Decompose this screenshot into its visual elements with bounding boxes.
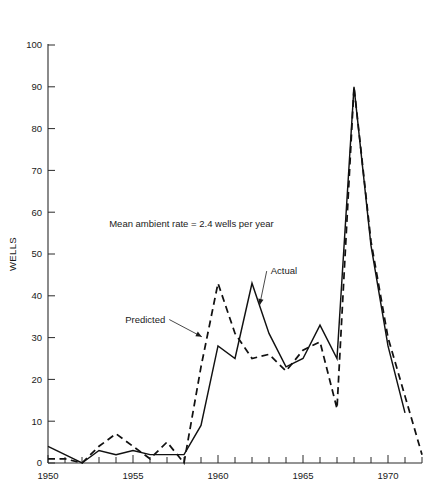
- x-tick-label: 1970: [377, 470, 398, 481]
- series-line-predicted: [48, 87, 422, 463]
- y-tick-label: 40: [31, 290, 42, 301]
- y-tick-label: 50: [31, 248, 42, 259]
- series-layer: [48, 87, 422, 463]
- y-axis: 0102030405060708090100 WELLS: [7, 39, 55, 468]
- y-tick-label: 90: [31, 81, 42, 92]
- y-tick-group: 0102030405060708090100: [26, 39, 55, 468]
- y-tick-label: 60: [31, 207, 42, 218]
- y-tick-label: 70: [31, 165, 42, 176]
- chart-canvas: 0102030405060708090100 WELLS 19501955196…: [0, 0, 440, 492]
- x-tick-label: 1960: [207, 470, 228, 481]
- y-tick-label: 30: [31, 332, 42, 343]
- series-line-actual: [48, 87, 405, 463]
- wells-line-chart: 0102030405060708090100 WELLS 19501955196…: [0, 0, 440, 492]
- y-tick-label: 10: [31, 416, 42, 427]
- annotation-layer: Mean ambient rate = 2.4 wells per year A…: [109, 218, 297, 337]
- y-tick-label: 100: [26, 39, 42, 50]
- y-tick-label: 20: [31, 374, 42, 385]
- x-tick-label: 1955: [122, 470, 143, 481]
- series-label-predicted: Predicted: [125, 314, 165, 325]
- x-tick-label: 1965: [292, 470, 313, 481]
- annotation-mean-ambient-rate: Mean ambient rate = 2.4 wells per year: [109, 218, 274, 229]
- series-label-actual: Actual: [271, 265, 297, 276]
- y-tick-label: 0: [37, 457, 42, 468]
- x-axis: 19501955196019651970: [37, 455, 422, 481]
- y-axis-title: WELLS: [7, 237, 18, 271]
- y-tick-label: 80: [31, 123, 42, 134]
- x-tick-label: 1950: [37, 470, 58, 481]
- x-tick-group: 19501955196019651970: [37, 455, 422, 481]
